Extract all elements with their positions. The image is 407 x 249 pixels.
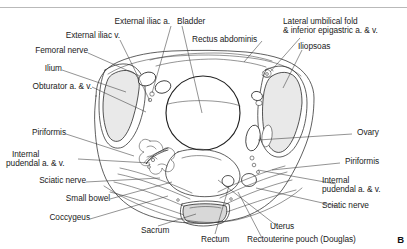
leader-piriformis-left: [66, 134, 134, 156]
label-coccygeus: Coccygeus: [0, 213, 90, 222]
label-piriformis-left: Piriformis: [0, 128, 66, 137]
leader-internal-pudendal-left: [78, 159, 150, 163]
label-obturator-a-v: Obturator a. & v.: [0, 82, 92, 91]
leader-external-iliac-a: [152, 26, 171, 93]
leader-small-bowel: [110, 182, 172, 199]
leader-lateral-umbilical: [270, 38, 300, 72]
label-uterus: Uterus: [270, 222, 294, 231]
label-rectouterine-pouch: Rectouterine pouch (Douglas): [247, 235, 356, 244]
label-external-iliac-a: External iliac a.: [0, 17, 170, 26]
leader-sciatic-nerve-left: [86, 178, 160, 182]
label-sciatic-nerve-right: Sciatic nerve: [322, 201, 369, 210]
label-small-bowel: Small bowel: [0, 194, 110, 203]
label-rectus-abdominis: Rectus abdominis: [192, 35, 257, 44]
label-piriformis-right: Piriformis: [345, 157, 379, 166]
label-iliopsoas: Iliopsoas: [298, 42, 330, 51]
label-internal-pudendal-right-line2: pudendal a. & v.: [322, 185, 381, 194]
label-internal-pudendal-left-line2: pudendal a. & v.: [6, 159, 65, 168]
label-sciatic-nerve-left: Sciatic nerve: [0, 176, 86, 185]
leader-iliopsoas: [283, 50, 302, 88]
anatomy-figure-panel: External iliac a. External iliac v. Femo…: [0, 0, 407, 249]
label-sacrum: Sacrum: [141, 226, 169, 235]
label-femoral-nerve: Femoral nerve: [0, 46, 88, 55]
leader-rectouterine-pouch: [238, 192, 262, 238]
label-bladder: Bladder: [177, 17, 205, 26]
leader-rectum: [215, 186, 229, 234]
leader-ovary: [258, 134, 352, 140]
leader-uterus: [218, 180, 277, 226]
label-ilium: Ilium: [0, 64, 62, 73]
leader-obturator: [92, 87, 146, 112]
label-ovary: Ovary: [357, 128, 379, 137]
panel-letter-b: B: [397, 234, 404, 245]
leader-piriformis-right: [272, 163, 340, 170]
leader-external-iliac-v: [120, 40, 150, 101]
label-lateral-umbilical-fold-line2: & inferior epigastric a. & v.: [283, 26, 378, 35]
label-external-iliac-v: External iliac v.: [0, 31, 120, 40]
label-rectum: Rectum: [201, 235, 229, 244]
